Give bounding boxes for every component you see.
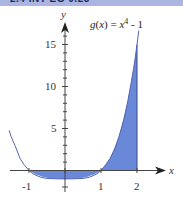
x-tick-label: 1 [98, 180, 104, 192]
function-label: g(x) = x4 - 1 [90, 17, 143, 31]
y-tick-label: 10 [45, 80, 57, 92]
y-axis-label: y [60, 8, 66, 20]
y-tick-label: 15 [45, 38, 57, 50]
x-axis-label: x [168, 164, 174, 176]
y-tick-label: 5 [51, 122, 57, 134]
x-tick-label: 2 [134, 180, 140, 192]
x-tick-label: -1 [22, 180, 31, 192]
shaded-region-above-axis [101, 45, 137, 171]
chart: x -1 1 2 y 5 10 15 g(x) = x4 - 1 [0, 0, 183, 205]
